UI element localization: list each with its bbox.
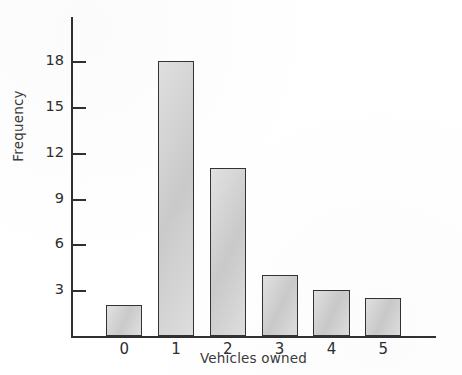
- bar-chart: Frequency 369121518012345 Vehicles owned: [0, 0, 462, 375]
- y-axis-tick-mark: [73, 199, 86, 201]
- bar: [106, 305, 142, 336]
- x-axis-title: Vehicles owned: [71, 350, 436, 366]
- bar: [210, 168, 246, 336]
- y-axis-tick-label: 3: [34, 282, 64, 297]
- y-axis-title: Frequency: [10, 66, 26, 186]
- y-axis-tick-mark: [73, 244, 86, 246]
- y-axis-tick-mark: [73, 153, 86, 155]
- y-axis-tick-label: 18: [34, 53, 64, 68]
- y-axis-tick-label: 12: [34, 145, 64, 160]
- y-axis-tick-label: 6: [34, 236, 64, 251]
- y-axis-tick-mark: [73, 61, 86, 63]
- y-axis-tick-label: 9: [34, 191, 64, 206]
- y-axis-tick-mark: [73, 290, 86, 292]
- y-axis-tick-mark: [73, 107, 86, 109]
- bar: [158, 61, 194, 336]
- bar: [262, 275, 298, 336]
- y-axis-tick-label: 15: [34, 99, 64, 114]
- x-axis-line: [71, 336, 436, 338]
- bar: [313, 290, 349, 336]
- bar: [365, 298, 401, 336]
